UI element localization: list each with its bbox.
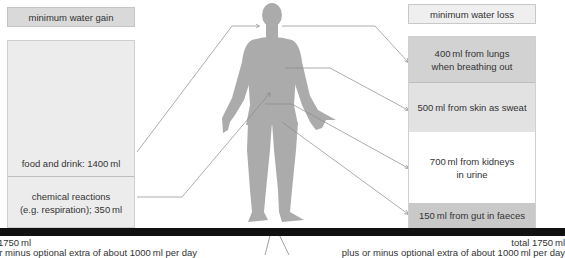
gain-total-line2: or minus optional extra of about 1000 ml… — [0, 248, 197, 258]
loss-item-skin: 500 ml from skin as sweat — [409, 83, 535, 132]
loss-header: minimum water loss — [408, 4, 536, 24]
gain-item-food-label: food and drink: 1400 ml — [22, 158, 121, 169]
loss-item-kidneys-line2: in urine — [430, 168, 514, 181]
loss-column: 400 ml from lungs when breathing out 500… — [408, 36, 536, 228]
gain-item-chemical: chemical reactions (e.g. respiration); 3… — [8, 176, 134, 229]
loss-item-gut: 150 ml from gut in faeces — [409, 203, 535, 228]
loss-header-label: minimum water loss — [430, 8, 514, 21]
loss-item-lungs-line1: 400 ml from lungs — [432, 47, 513, 60]
gain-item-chemical-line2: (e.g. respiration); 350 ml — [20, 203, 122, 216]
human-figure-icon — [222, 3, 336, 222]
loss-item-kidneys-line1: 700 ml from kidneys — [430, 155, 514, 168]
connector-gut — [282, 122, 408, 214]
balance-bar — [0, 228, 565, 236]
gain-item-food: food and drink: 1400 ml — [8, 41, 134, 176]
gain-column: food and drink: 1400 ml chemical reactio… — [7, 40, 135, 228]
gain-item-chemical-line1: chemical reactions — [20, 190, 122, 203]
loss-total: total 1750 ml plus or minus optional ext… — [265, 238, 565, 258]
gain-header: minimum water gain — [7, 7, 135, 27]
loss-item-lungs: 400 ml from lungs when breathing out — [409, 37, 535, 83]
loss-total-line2: plus or minus optional extra of about 10… — [265, 248, 565, 258]
loss-item-gut-line1: 150 ml from gut in faeces — [419, 209, 525, 222]
loss-item-lungs-line2: when breathing out — [432, 60, 513, 73]
gain-header-label: minimum water gain — [29, 11, 114, 24]
loss-item-skin-line1: 500 ml from skin as sweat — [417, 101, 526, 114]
loss-item-kidneys: 700 ml from kidneys in urine — [409, 132, 535, 203]
